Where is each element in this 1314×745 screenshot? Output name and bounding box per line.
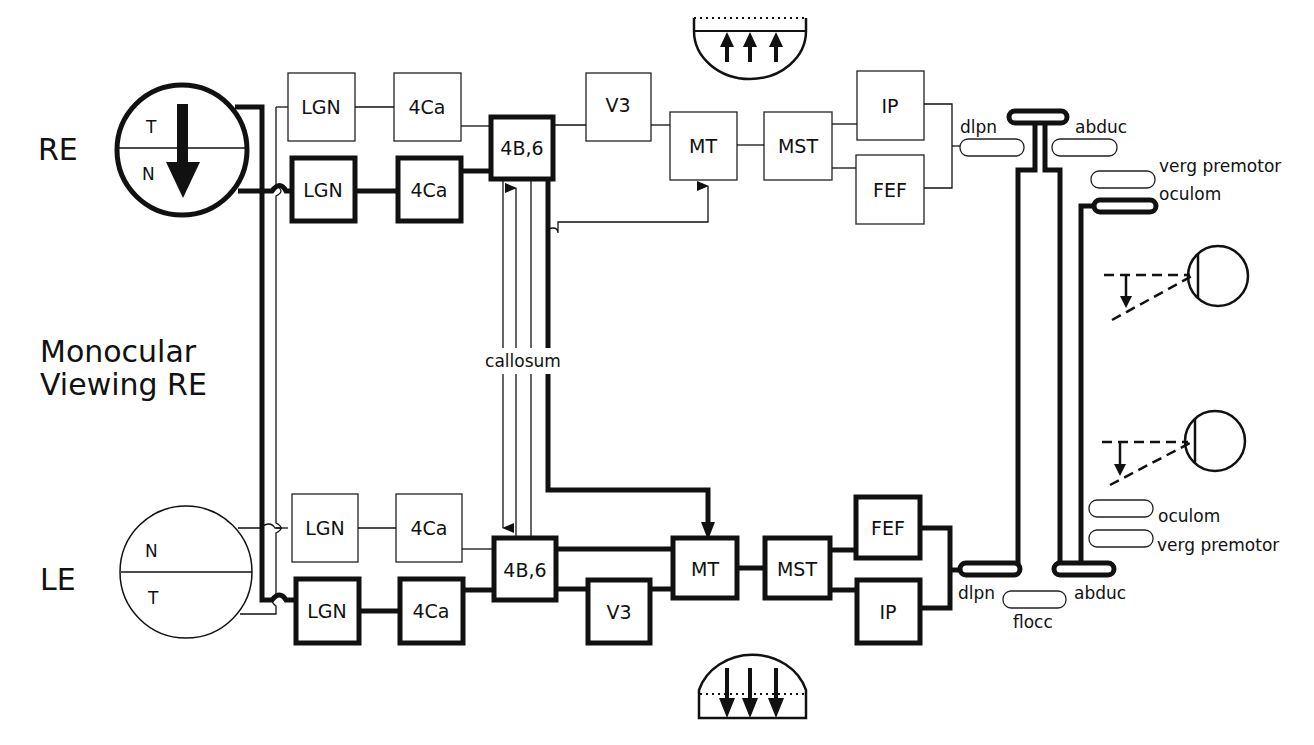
bottom-verg-node — [1089, 530, 1153, 547]
bottom-4ca-thick-label: 4Ca — [413, 600, 450, 622]
bottom-mst-label: MST — [777, 558, 817, 580]
viewing-mode-line1: Monocular — [40, 334, 197, 369]
top-v3-label: V3 — [605, 94, 630, 116]
top-lgn-thin-label: LGN — [301, 96, 341, 118]
right-eye-temporal-label: T — [145, 117, 157, 137]
viewing-mode-line2: Viewing RE — [40, 367, 207, 402]
top-oculom-node — [1094, 200, 1156, 212]
top-verg-node — [1091, 171, 1155, 188]
right-eyeball-bottom — [1102, 411, 1245, 485]
bottom-4ca-thin-label: 4Ca — [411, 517, 448, 539]
bottom-abduc-label: abduc — [1074, 583, 1126, 603]
top-mst-label: MST — [778, 135, 818, 157]
bottom-lgn-thin-label: LGN — [305, 517, 345, 539]
top-dlpn-label: dlpn — [960, 117, 997, 137]
left-eye-label: LE — [40, 562, 76, 597]
right-eye-nasal-label: N — [142, 164, 155, 184]
top-lgn-thick-label: LGN — [303, 179, 343, 201]
bottom-abduc-node — [1054, 563, 1114, 575]
downward-motion-field-icon — [699, 655, 806, 718]
right-eyeball-top — [1104, 246, 1248, 320]
bottom-dlpn-node — [960, 563, 1020, 575]
top-abduc-node — [1052, 139, 1117, 156]
bottom-oculom-node — [1089, 500, 1153, 517]
bottom-oculom-label: oculom — [1158, 506, 1220, 526]
top-4ca-thick-label: 4Ca — [411, 179, 448, 201]
bottom-mt-label: MT — [691, 558, 719, 580]
bottom-flocc-node — [1003, 591, 1066, 608]
bottom-ip-label: IP — [879, 601, 896, 623]
top-oculom-label: oculom — [1159, 184, 1221, 204]
top-flocc-node — [1009, 111, 1067, 123]
top-ip-label: IP — [881, 95, 898, 117]
upward-motion-field-icon — [694, 18, 806, 79]
right-eye: T N — [117, 85, 247, 215]
top-abduc-label: abduc — [1075, 117, 1127, 137]
bottom-fef-label: FEF — [871, 517, 905, 539]
top-4b6-label: 4B,6 — [500, 137, 543, 159]
top-dlpn-node — [960, 139, 1024, 156]
top-mt-label: MT — [689, 135, 717, 157]
top-4ca-thin-label: 4Ca — [409, 96, 446, 118]
left-eye-temporal-label: T — [147, 588, 159, 608]
bottom-4b6-label: 4B,6 — [503, 559, 546, 581]
bottom-flocc-label: flocc — [1013, 612, 1053, 632]
optic-tract-wiring — [235, 107, 294, 614]
callosum-label: callosum — [485, 351, 561, 371]
bottom-lgn-thick-label: LGN — [307, 600, 347, 622]
right-eye-label: RE — [38, 132, 78, 167]
top-verg-label: verg premotor — [1159, 156, 1281, 176]
left-eye-nasal-label: N — [145, 541, 158, 561]
top-fef-label: FEF — [873, 179, 907, 201]
left-eye: N T — [120, 506, 252, 638]
bottom-dlpn-label: dlpn — [958, 583, 995, 603]
bottom-verg-label: verg premotor — [1157, 535, 1279, 555]
visual-pathway-diagram: RE LE Monocular Viewing RE T N N T LGN 4… — [0, 0, 1314, 745]
bottom-v3-label: V3 — [606, 601, 631, 623]
